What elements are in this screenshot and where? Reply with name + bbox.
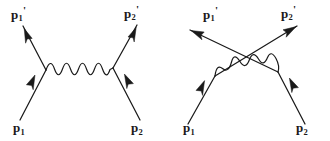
label-subscript: 2 — [303, 127, 307, 137]
arrowhead-crossed-outgoing-right — [283, 27, 296, 38]
label-incoming-right-t-channel: p2 — [131, 121, 143, 136]
t-channel-diagram — [20, 25, 140, 120]
crossed-outgoing-line-right — [215, 26, 297, 76]
label-prime: ' — [215, 4, 218, 16]
label-incoming-left-u-channel: p1 — [183, 121, 195, 136]
label-prime: ' — [23, 4, 26, 16]
arrowhead-incoming-right — [289, 78, 298, 93]
label-subscript: 1 — [20, 127, 24, 137]
label-incoming-right-u-channel: p2 — [296, 121, 308, 136]
label-incoming-left-t-channel: p1 — [13, 121, 25, 136]
label-prime: ' — [136, 3, 139, 15]
label-outgoing-right-t-channel: p2' — [124, 4, 139, 22]
label-subscript: 2 — [138, 127, 142, 137]
label-subscript: 1 — [190, 127, 194, 137]
arrowhead-incoming-left — [26, 75, 35, 90]
incoming-line-right — [113, 68, 140, 120]
crossed-outgoing-line-left — [190, 30, 278, 72]
label-outgoing-right-u-channel: p2' — [281, 4, 296, 22]
arrowhead-incoming-right — [124, 74, 133, 89]
label-prime: ' — [293, 3, 296, 15]
incoming-line-right — [278, 72, 305, 124]
label-outgoing-left-t-channel: p1' — [11, 5, 26, 23]
incoming-line-left — [188, 76, 215, 124]
arrowhead-incoming-left — [196, 81, 205, 96]
photon-propagator-wavy-line — [46, 63, 113, 75]
u-channel-diagram — [188, 26, 305, 124]
label-outgoing-left-u-channel: p1' — [203, 5, 218, 23]
feynman-diagram-figure: p1' p2' p1 p2 p1' p2' p1 p2 — [0, 0, 330, 141]
